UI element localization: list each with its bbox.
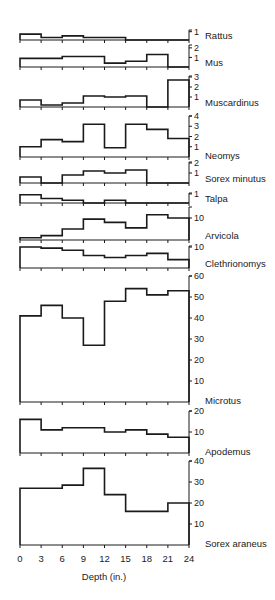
x-tick-label: 15 (120, 553, 131, 564)
y-tick-label: 30 (194, 334, 204, 344)
species-panels: 1Rattus12Mus123Muscardinus1234Neomys12So… (20, 27, 267, 549)
panel-arvicola: 10Arvicola (20, 207, 240, 243)
species-label: Talpa (205, 193, 228, 204)
x-tick-label: 9 (81, 553, 86, 564)
x-tick-label: 6 (60, 553, 65, 564)
species-label: Sorex minutus (205, 173, 266, 184)
species-label: Sorex araneus (205, 538, 267, 549)
x-tick-label: 24 (184, 553, 195, 564)
histogram-outline (20, 170, 189, 183)
y-tick-label: 20 (194, 498, 204, 508)
histogram-outline (20, 34, 189, 40)
y-tick-label: 50 (194, 292, 204, 302)
y-tick-label: 20 (194, 406, 204, 416)
histogram-outline (20, 55, 189, 67)
y-tick-label: 10 (194, 242, 204, 252)
y-tick-label: 3 (194, 121, 199, 131)
species-label: Microtus (205, 395, 241, 406)
histogram-outline (20, 247, 189, 268)
histogram-outline (20, 195, 189, 203)
y-tick-label: 20 (194, 355, 204, 365)
y-tick-label: 2 (194, 158, 199, 168)
x-axis: 03691215182124 Depth (in.) (17, 553, 194, 582)
y-tick-label: 1 (194, 92, 199, 102)
histogram-outline (20, 289, 189, 402)
y-tick-label: 2 (194, 132, 199, 142)
y-tick-label: 3 (194, 72, 199, 82)
y-tick-label: 4 (194, 111, 199, 121)
panel-muscardinus: 123Muscardinus (20, 72, 259, 110)
y-tick-label: 10 (194, 519, 204, 529)
species-label: Clethrionomys (205, 258, 266, 269)
y-tick-label: 1 (194, 189, 199, 199)
histogram-outline (20, 80, 189, 107)
y-tick-label: 60 (194, 271, 204, 281)
y-tick-label: 10 (194, 376, 204, 386)
panel-talpa: 1Talpa (20, 189, 228, 206)
x-tick-label: 0 (17, 553, 22, 564)
depth-histogram-chart: 1Rattus12Mus123Muscardinus1234Neomys12So… (0, 0, 275, 600)
panel-apodemus: 1020Apodemus (20, 406, 251, 457)
panel-clethrionomys: 10Clethrionomys (20, 242, 266, 271)
y-tick-label: 1 (194, 168, 199, 178)
y-tick-label: 1 (194, 53, 199, 63)
y-tick-label: 1 (194, 27, 199, 37)
species-label: Arvicola (205, 230, 240, 241)
chart-canvas: 1Rattus12Mus123Muscardinus1234Neomys12So… (0, 0, 275, 600)
histogram-outline (20, 468, 189, 545)
x-tick-label: 12 (99, 553, 110, 564)
y-tick-label: 2 (194, 43, 199, 53)
x-tick-label: 21 (163, 553, 174, 564)
species-label: Rattus (205, 30, 233, 41)
y-tick-label: 10 (194, 427, 204, 437)
panel-sorex-minutus: 12Sorex minutus (20, 158, 266, 186)
y-tick-label: 1 (194, 142, 199, 152)
histogram-outline (20, 124, 189, 157)
panel-rattus: 1Rattus (20, 27, 233, 43)
x-tick-label: 18 (141, 553, 152, 564)
panel-microtus: 102030405060Microtus (20, 271, 241, 406)
species-label: Mus (205, 57, 223, 68)
species-label: Neomys (205, 150, 240, 161)
species-label: Muscardinus (205, 97, 259, 108)
x-tick-labels: 03691215182124 (17, 553, 194, 564)
y-tick-label: 30 (194, 477, 204, 487)
histogram-outline (20, 419, 189, 453)
y-tick-label: 2 (194, 82, 199, 92)
panel-neomys: 1234Neomys (20, 111, 240, 161)
histogram-outline (20, 215, 189, 240)
x-axis-title: Depth (in.) (82, 571, 126, 582)
panel-mus: 12Mus (20, 43, 223, 70)
y-tick-label: 40 (194, 313, 204, 323)
y-tick-label: 10 (194, 213, 204, 223)
panel-sorex-araneus: 10203040Sorex araneus (20, 456, 267, 549)
species-label: Apodemus (205, 446, 251, 457)
y-tick-label: 40 (194, 456, 204, 466)
x-tick-label: 3 (38, 553, 43, 564)
